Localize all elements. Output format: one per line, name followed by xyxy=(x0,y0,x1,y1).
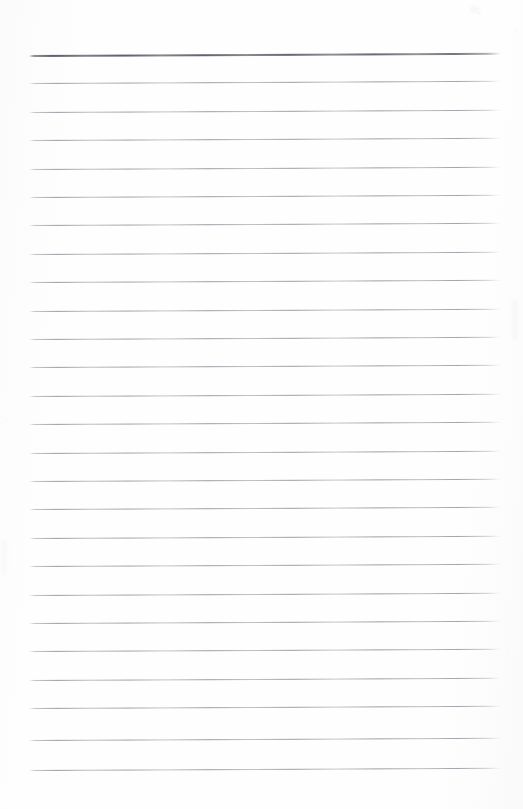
scanned-page xyxy=(0,0,523,809)
ruled-line xyxy=(29,251,501,254)
ruled-line xyxy=(29,109,501,112)
ruled-line xyxy=(29,706,501,709)
ruled-line xyxy=(29,393,501,396)
ruled-line xyxy=(29,223,501,226)
ruled-line xyxy=(29,450,501,453)
ruled-line xyxy=(29,308,501,311)
ruled-line-emphasis xyxy=(29,53,501,57)
ruled-line xyxy=(29,365,501,368)
ruled-line xyxy=(29,81,501,84)
ruled-line xyxy=(29,422,501,425)
ruled-line xyxy=(29,138,501,141)
ruled-line xyxy=(29,195,501,198)
ruled-line xyxy=(29,767,501,770)
ruled-line xyxy=(29,621,501,624)
ruled-line xyxy=(29,738,501,741)
ruled-line xyxy=(29,592,501,595)
ruled-line xyxy=(29,564,501,567)
ruled-line xyxy=(29,280,501,283)
ruled-lines-group xyxy=(0,0,523,809)
ruled-line xyxy=(29,166,501,169)
ruled-line xyxy=(29,507,501,510)
ruled-line xyxy=(29,535,501,538)
ruled-line xyxy=(29,479,501,482)
ruled-line xyxy=(29,677,501,680)
ruled-line xyxy=(29,649,501,652)
ruled-line xyxy=(29,337,501,340)
